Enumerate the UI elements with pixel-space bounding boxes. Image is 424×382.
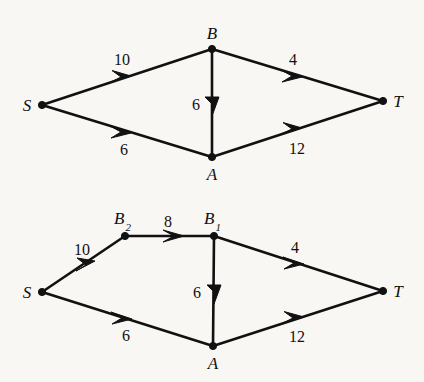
edge-capacity-s-b2-bottom: 10: [74, 242, 90, 258]
node-label-b2-subscript: 2: [125, 221, 131, 233]
arrowhead-b1-a-bottom: [207, 285, 221, 304]
node-dot-a-top: [208, 153, 215, 160]
node-dot-t-bottom: [379, 287, 386, 294]
node-label-s-top: S: [23, 97, 32, 114]
arrowhead-s-a-bottom: [111, 312, 132, 324]
node-label-s-bottom: S: [23, 284, 32, 301]
node-dot-t-top: [379, 97, 386, 104]
top-network-group: [38, 45, 386, 160]
arrowhead-b-t-top: [281, 70, 302, 82]
node-label-t-bottom: T: [393, 283, 402, 300]
node-label-b2-base: B: [114, 209, 124, 228]
edge-capacity-b-t-top: 4: [289, 52, 297, 68]
node-label-a-bottom: A: [208, 355, 218, 372]
node-label-b-top: B: [207, 25, 217, 42]
network-edges-canvas: [0, 0, 424, 382]
edge-capacity-b-a-top: 6: [192, 97, 200, 113]
edge-capacity-s-a-top: 6: [120, 142, 128, 158]
flow-network-figure: S B A T 10 6 4 12 6 S B2 B1 A T 10 8 6 4…: [0, 0, 424, 382]
node-dot-s-bottom: [38, 288, 45, 295]
bottom-network-group: [38, 230, 386, 350]
edge-capacity-s-b-top: 10: [114, 52, 130, 68]
node-dot-b-top: [208, 45, 215, 52]
arrowhead-s-b2-bottom: [76, 258, 95, 271]
edge-capacity-b1-t-bottom: 4: [291, 240, 299, 256]
edge-capacity-a-t-bottom: 12: [289, 329, 305, 345]
node-label-t-top: T: [393, 93, 402, 110]
node-label-b1-base: B: [204, 209, 214, 228]
node-label-b2-bottom: B2: [114, 210, 130, 230]
edge-capacity-s-a-bottom: 6: [122, 328, 130, 344]
node-dot-s-top: [38, 101, 45, 108]
node-label-b1-bottom: B1: [204, 210, 220, 230]
edge-capacity-b1-a-bottom: 6: [193, 285, 201, 301]
edge-capacity-b2-b1-bottom: 8: [164, 214, 172, 230]
edge-capacity-a-t-top: 12: [289, 141, 305, 157]
node-dot-a-bottom: [209, 342, 216, 349]
arrowhead-b1-t-bottom: [283, 257, 304, 269]
node-label-a-top: A: [207, 166, 217, 183]
node-dot-b1-bottom: [210, 232, 217, 239]
arrowhead-b-a-top: [205, 97, 219, 116]
node-label-b1-subscript: 1: [215, 221, 221, 233]
node-dot-b2-bottom: [121, 232, 128, 239]
